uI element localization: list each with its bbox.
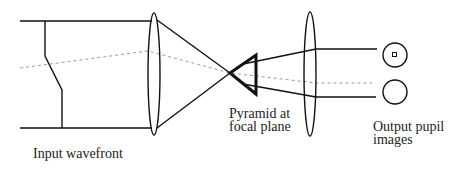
label-pyramid-line2: focal plane — [229, 120, 291, 133]
lens-1 — [148, 13, 160, 135]
label-input-wavefront: Input wavefront — [33, 147, 123, 160]
cone-bottom — [157, 73, 230, 128]
chief-ray-dashed — [20, 51, 372, 83]
pupil-image-2 — [383, 80, 407, 104]
pyramid-prism — [230, 55, 256, 94]
wavefront-step — [45, 21, 62, 128]
lens-2 — [304, 12, 316, 136]
cone-top — [157, 20, 230, 73]
pupil-image-1 — [383, 43, 407, 67]
label-output-line2: images — [373, 133, 413, 146]
pupil-marker-square — [393, 53, 397, 57]
